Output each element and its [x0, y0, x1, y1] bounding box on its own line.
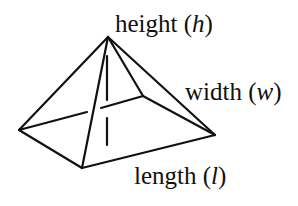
edge-apex-left [19, 37, 108, 130]
edge-apex-back [108, 37, 143, 96]
height-label: height (h) [115, 10, 213, 38]
edge-apex-front [82, 37, 108, 168]
edge-base-left-back-a [19, 112, 87, 130]
length-label: length (l) [134, 162, 226, 190]
pyramid-diagram: height (h) width (w) length (l) [0, 0, 298, 206]
width-label: width (w) [185, 78, 282, 106]
edge-base-left-front [19, 130, 82, 168]
